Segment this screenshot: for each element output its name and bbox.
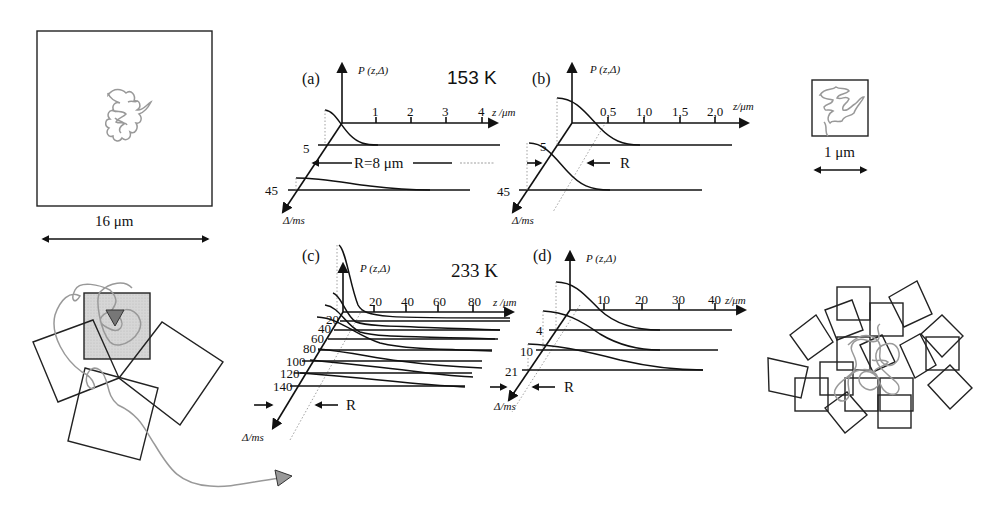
svg-text:2,0: 2,0 (707, 104, 723, 119)
svg-text:0,5: 0,5 (600, 104, 616, 119)
rotating-boxes-diffusion (33, 283, 292, 486)
svg-text:4: 4 (536, 323, 543, 338)
svg-text:233 K: 233 K (451, 260, 498, 281)
svg-text:60: 60 (433, 294, 446, 309)
panel-d: (d) P (z,Δ) 10 20 30 40 z/μm Δ/ms 4 10 2… (490, 247, 746, 412)
svg-text:2: 2 (407, 104, 414, 119)
svg-text:Δ/ms: Δ/ms (241, 431, 264, 443)
svg-text:(c): (c) (302, 247, 320, 265)
scale-label-1um: 1 μm (824, 144, 855, 160)
diffusion-figure: 16 μm 1 μm (a) P (z,Δ) 153 K 1 2 3 4 z /… (0, 0, 1005, 507)
svg-text:P (z,Δ): P (z,Δ) (359, 262, 390, 275)
svg-text:4: 4 (478, 104, 485, 119)
svg-text:z/μm: z/μm (732, 100, 754, 112)
svg-text:80: 80 (468, 294, 481, 309)
svg-text:(b): (b) (532, 70, 551, 88)
panel-c: (c) P (z,Δ) 233 K 20 40 60 80 z /μm Δ/ms… (241, 245, 517, 443)
svg-text:z /μm: z /μm (492, 296, 517, 308)
svg-text:1: 1 (372, 104, 379, 119)
svg-text:3: 3 (442, 104, 449, 119)
svg-text:30: 30 (672, 292, 685, 307)
svg-text:45: 45 (265, 183, 278, 198)
small-confinement-box: 1 μm (812, 80, 868, 170)
temperature-label: 153 K (447, 67, 497, 88)
svg-text:1,5: 1,5 (672, 104, 688, 119)
scale-label-16um: 16 μm (95, 213, 134, 229)
svg-text:40: 40 (708, 292, 721, 307)
panel-label: (a) (302, 70, 320, 88)
svg-text:20: 20 (369, 294, 382, 309)
svg-text:(d): (d) (533, 247, 552, 265)
svg-text:21: 21 (505, 364, 518, 379)
svg-text:20: 20 (635, 292, 648, 307)
large-confinement-box: 16 μm (37, 31, 212, 239)
svg-text:P (z,Δ): P (z,Δ) (585, 252, 616, 265)
svg-text:R: R (620, 155, 630, 171)
svg-text:10: 10 (520, 344, 533, 359)
svg-text:R: R (564, 379, 574, 395)
svg-text:45: 45 (497, 184, 510, 199)
svg-text:P (z,Δ): P (z,Δ) (589, 63, 620, 76)
radius-annotation: R=8 μm (354, 155, 404, 171)
panel-b: (b) P (z,Δ) 0,5 1,0 1,5 2,0 z/μm Δ/ms 5 … (497, 63, 754, 226)
svg-text:R: R (346, 397, 356, 413)
svg-text:140: 140 (273, 379, 293, 394)
panel-a: (a) P (z,Δ) 153 K 1 2 3 4 z /μm Δ/ms 5 R… (265, 64, 516, 226)
svg-text:z/μm: z/μm (724, 294, 746, 306)
svg-text:Δ/ms: Δ/ms (511, 214, 534, 226)
svg-text:10: 10 (597, 292, 610, 307)
x-axis-label: z /μm (491, 106, 516, 118)
delta-axis-label: Δ/ms (282, 214, 305, 226)
svg-text:5: 5 (303, 141, 310, 156)
svg-text:40: 40 (401, 294, 414, 309)
svg-text:Δ/ms: Δ/ms (493, 400, 516, 412)
svg-text:1,0: 1,0 (636, 104, 652, 119)
y-axis-label: P (z,Δ) (357, 64, 388, 77)
rotating-boxes-cluster (768, 281, 972, 433)
